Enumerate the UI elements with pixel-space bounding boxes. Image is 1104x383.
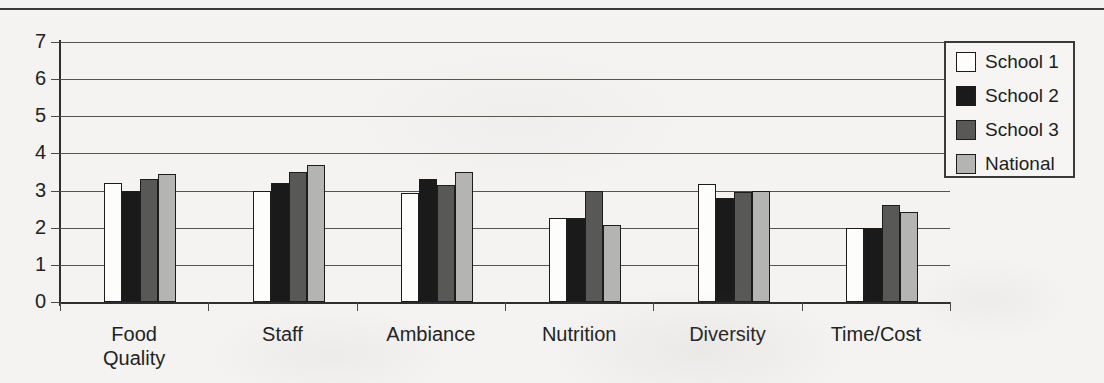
legend-label: School 3: [985, 119, 1059, 141]
bar-ambiance-school-3: [437, 185, 455, 302]
x-axis-label-nutrition: Nutrition: [505, 322, 653, 346]
y-tick-label-4: 4: [20, 142, 46, 162]
legend-item-school-1: School 1: [956, 46, 1073, 77]
bar-food-quality-school-1: [104, 183, 122, 302]
bar-diversity-school-1: [698, 184, 716, 302]
bar-diversity-national: [752, 191, 770, 302]
bar-time-cost-school-3: [882, 205, 900, 302]
bar-staff-national: [307, 165, 325, 302]
gridline-4: [60, 153, 950, 154]
white-square-swatch-icon: [956, 52, 976, 72]
y-tick-label-2: 2: [20, 217, 46, 237]
plot-area: [60, 42, 950, 302]
bar-ambiance-national: [455, 172, 473, 302]
y-axis-tick-labels: 01234567: [10, 0, 46, 383]
bar-time-cost-school-2: [864, 228, 882, 302]
x-tick-2: [357, 302, 358, 311]
chart-page: 01234567 Food QualityStaffAmbianceNutrit…: [0, 0, 1104, 383]
gridline-2: [60, 228, 950, 229]
legend-item-national: National: [956, 148, 1073, 179]
bar-time-cost-school-1: [846, 228, 864, 302]
x-tick-4: [653, 302, 654, 311]
bar-staff-school-3: [289, 172, 307, 302]
bar-nutrition-school-1: [549, 218, 567, 302]
x-axis-label-staff: Staff: [208, 322, 356, 346]
x-tick-end: [950, 302, 951, 311]
y-tick-label-7: 7: [20, 31, 46, 51]
gridline-5: [60, 116, 950, 117]
bar-staff-school-1: [253, 191, 271, 302]
legend-item-school-3: School 3: [956, 114, 1073, 145]
x-axis-label-food-quality: Food Quality: [60, 322, 208, 370]
bar-food-quality-national: [158, 174, 176, 302]
bar-time-cost-national: [900, 212, 918, 302]
y-tick-label-0: 0: [20, 291, 46, 311]
bar-food-quality-school-3: [140, 179, 158, 302]
x-tick-1: [208, 302, 209, 311]
bar-nutrition-school-3: [585, 191, 603, 302]
bar-nutrition-national: [603, 225, 621, 302]
bar-nutrition-school-2: [567, 218, 585, 302]
chart-legend: School 1School 2School 3National: [944, 41, 1075, 178]
legend-label: National: [985, 153, 1055, 175]
x-tick-3: [505, 302, 506, 311]
legend-label: School 2: [985, 85, 1059, 107]
top-horizontal-rule: [0, 8, 1104, 10]
bar-diversity-school-2: [716, 198, 734, 302]
gridline-6: [60, 79, 950, 80]
x-tick-0: [60, 302, 61, 311]
black-square-swatch-icon: [956, 86, 976, 106]
bar-food-quality-school-2: [122, 191, 140, 302]
legend-label: School 1: [985, 51, 1059, 73]
x-axis-label-diversity: Diversity: [653, 322, 801, 346]
y-tick-label-5: 5: [20, 105, 46, 125]
x-axis-label-ambiance: Ambiance: [357, 322, 505, 346]
x-tick-5: [802, 302, 803, 311]
light-gray-square-swatch-icon: [956, 154, 976, 174]
y-tick-label-6: 6: [20, 68, 46, 88]
legend-item-school-2: School 2: [956, 80, 1073, 111]
bar-ambiance-school-1: [401, 193, 419, 302]
x-axis-label-time-cost: Time/Cost: [802, 322, 950, 346]
bar-ambiance-school-2: [419, 179, 437, 302]
bar-staff-school-2: [271, 183, 289, 302]
gridline-7: [60, 42, 950, 43]
y-tick-label-1: 1: [20, 254, 46, 274]
dark-gray-square-swatch-icon: [956, 120, 976, 140]
bar-diversity-school-3: [734, 192, 752, 302]
y-tick-label-3: 3: [20, 180, 46, 200]
gridline-1: [60, 265, 950, 266]
gridline-3: [60, 191, 950, 192]
